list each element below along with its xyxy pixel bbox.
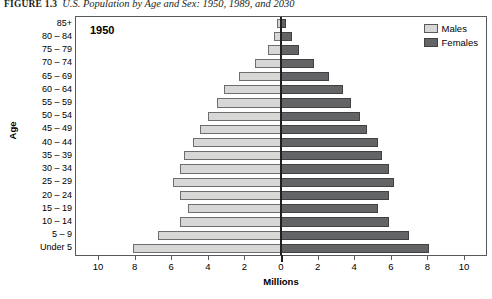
plot-area: 1950 Males Females xyxy=(75,16,487,256)
x-axis-tick-label: 6 xyxy=(388,261,393,272)
x-axis-tick-mark xyxy=(98,255,99,260)
x-axis-tick-mark xyxy=(318,255,319,260)
x-axis-title: Millions xyxy=(75,276,487,287)
figure-caption-text: U.S. Population by Age and Sex: 1950, 19… xyxy=(62,0,294,9)
bar-males xyxy=(224,85,281,94)
y-axis-tick-label: 35 – 39 xyxy=(42,150,72,160)
bar-females xyxy=(281,244,429,253)
bar-females xyxy=(281,72,329,81)
x-axis-tick-label: 10 xyxy=(93,261,104,272)
bar-females xyxy=(281,138,378,147)
x-axis-tick-label: 8 xyxy=(132,261,137,272)
bar-males xyxy=(173,178,281,187)
y-axis-tick-label: 30 – 34 xyxy=(42,163,72,173)
bar-males xyxy=(255,59,281,68)
bar-females xyxy=(281,217,389,226)
y-axis-tick-label: 60 – 64 xyxy=(42,84,72,94)
bar-males xyxy=(188,204,281,213)
x-axis-tick-label: 6 xyxy=(169,261,174,272)
bar-females xyxy=(281,125,367,134)
y-axis-tick-label: 70 – 74 xyxy=(42,57,72,67)
bar-males xyxy=(193,138,281,147)
bar-males xyxy=(239,72,281,81)
page-bottom-edge xyxy=(0,291,492,299)
y-axis-tick-label: 55 – 59 xyxy=(42,97,72,107)
figure-caption: FIGURE 1.3U.S. Population by Age and Sex… xyxy=(4,0,294,9)
x-axis-tick-mark xyxy=(135,255,136,260)
x-axis-tick-label: 2 xyxy=(242,261,247,272)
figure-number: FIGURE 1.3 xyxy=(4,0,57,9)
x-axis-tick-labels: 1086420246810 xyxy=(75,261,487,275)
bar-females xyxy=(281,98,351,107)
y-axis-tick-label: 75 – 79 xyxy=(42,44,72,54)
bar-females xyxy=(281,204,378,213)
bar-females xyxy=(281,178,394,187)
x-axis-tick-label: 0 xyxy=(278,261,283,272)
y-axis-tick-label: 15 – 19 xyxy=(42,203,72,213)
bar-females xyxy=(281,85,343,94)
y-axis-tick-labels: 85+80 – 8475 – 7970 – 7465 – 6960 – 6455… xyxy=(22,16,72,256)
bar-females xyxy=(281,164,389,173)
y-axis-tick-label: 10 – 14 xyxy=(42,216,72,226)
bar-males xyxy=(184,151,281,160)
y-axis-tick-label: 50 – 54 xyxy=(42,110,72,120)
bar-females xyxy=(281,32,292,41)
x-axis-tick-label: 2 xyxy=(315,261,320,272)
y-axis-tick-label: Under 5 xyxy=(40,242,72,252)
bar-females xyxy=(281,59,314,68)
x-axis-tick-label: 10 xyxy=(459,261,470,272)
y-axis-tick-label: 85+ xyxy=(57,18,72,28)
figure-root: FIGURE 1.3U.S. Population by Age and Sex… xyxy=(0,0,492,299)
bar-females xyxy=(281,231,409,240)
x-axis-tick-label: 4 xyxy=(352,261,357,272)
bar-males xyxy=(200,125,281,134)
x-axis-tick-label: 4 xyxy=(205,261,210,272)
x-axis-tick-mark xyxy=(244,255,245,260)
y-axis-tick-label: 25 – 29 xyxy=(42,176,72,186)
y-axis-tick-label: 20 – 24 xyxy=(42,190,72,200)
x-axis-tick-mark xyxy=(464,255,465,260)
y-axis-title: Age xyxy=(7,111,18,151)
y-axis-tick-label: 80 – 84 xyxy=(42,31,72,41)
y-axis-tick-label: 5 – 9 xyxy=(52,229,72,239)
zero-axis-line xyxy=(280,17,282,255)
bar-females xyxy=(281,191,389,200)
x-axis-tick-mark xyxy=(391,255,392,260)
bar-males xyxy=(180,191,281,200)
bar-females xyxy=(281,151,382,160)
bar-males xyxy=(208,112,281,121)
x-axis-tick-mark xyxy=(427,255,428,260)
bar-males xyxy=(158,231,281,240)
bar-males xyxy=(133,244,281,253)
y-axis-tick-label: 40 – 44 xyxy=(42,137,72,147)
bar-females xyxy=(281,112,360,121)
y-axis-tick-label: 45 – 49 xyxy=(42,123,72,133)
bar-males xyxy=(180,217,281,226)
bar-females xyxy=(281,45,299,54)
x-axis-tick-mark xyxy=(208,255,209,260)
x-axis-tick-label: 8 xyxy=(425,261,430,272)
y-axis-tick-label: 65 – 69 xyxy=(42,71,72,81)
x-axis-tick-mark xyxy=(171,255,172,260)
bar-males xyxy=(180,164,281,173)
x-axis-tick-mark xyxy=(354,255,355,260)
bar-males xyxy=(217,98,281,107)
